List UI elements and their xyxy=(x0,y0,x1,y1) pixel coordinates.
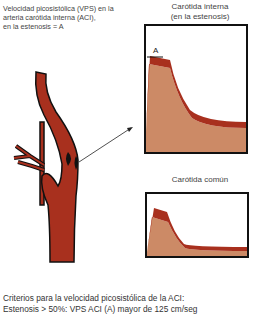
carotid-artery-illustration xyxy=(14,72,133,262)
footer-criteria: Criterios para la velocidad picosistólic… xyxy=(3,293,197,315)
footer-line-2: Estenosis > 50%: VPS ACI (A) mayor de 12… xyxy=(3,304,197,315)
internal-carotid-waveform-panel xyxy=(145,25,247,153)
footer-line-1: Criterios para la velocidad picosistólic… xyxy=(3,293,197,304)
peak-velocity-label: A xyxy=(153,46,158,55)
common-carotid-waveform-panel xyxy=(146,193,248,257)
diagram-canvas xyxy=(0,0,256,317)
